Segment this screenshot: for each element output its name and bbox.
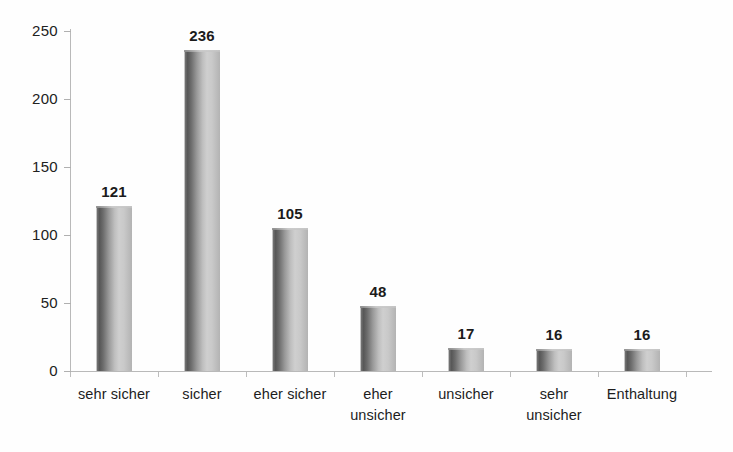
x-axis-label-line: sicher (182, 386, 221, 402)
y-tick-label: 250 (0, 22, 58, 39)
y-tick-mark (64, 167, 71, 168)
x-tick-mark (598, 372, 599, 377)
bar-chart: 050100150200250 12123610548171616 sehr s… (0, 0, 733, 452)
bar-group: 17 (422, 314, 510, 371)
x-axis-line (70, 371, 712, 372)
bar[interactable] (96, 206, 132, 371)
bar-top-cap (448, 348, 484, 350)
bar-group: 16 (598, 315, 686, 371)
bar-value-label: 17 (422, 325, 510, 342)
bar-value-label: 16 (598, 326, 686, 343)
bar[interactable] (536, 349, 572, 371)
x-tick-mark (334, 372, 335, 377)
bar[interactable] (360, 306, 396, 371)
bar-top-cap (624, 349, 660, 351)
bar-top-cap (360, 306, 396, 308)
bar-top-cap (536, 349, 572, 351)
x-axis-label: Enthaltung (587, 384, 697, 405)
bar-group: 105 (246, 194, 334, 371)
bar-value-label: 48 (334, 283, 422, 300)
plot-area: 050100150200250 12123610548171616 sehr s… (0, 0, 733, 452)
y-tick-label: 50 (0, 294, 58, 311)
bar-top-cap (272, 228, 308, 230)
y-tick-mark (64, 99, 71, 100)
x-tick-mark (70, 372, 71, 377)
y-tick-label: 0 (0, 362, 58, 379)
bar[interactable] (184, 50, 220, 371)
bar-group: 48 (334, 272, 422, 371)
bar-group: 16 (510, 315, 598, 371)
x-axis-label-line: eher (363, 386, 392, 402)
x-tick-mark (246, 372, 247, 377)
y-tick-label: 100 (0, 226, 58, 243)
x-axis-label-line: eher sicher (254, 386, 327, 402)
bar-group: 236 (158, 16, 246, 371)
bar-top-cap (184, 50, 220, 52)
x-tick-mark (158, 372, 159, 377)
bar-value-label: 121 (70, 183, 158, 200)
y-tick-mark (64, 31, 71, 32)
x-axis-label-line: unsicher (499, 405, 609, 426)
x-tick-mark (422, 372, 423, 377)
x-axis-label-line: sehr (540, 386, 569, 402)
bar-value-label: 105 (246, 205, 334, 222)
bar-value-label: 16 (510, 326, 598, 343)
bar[interactable] (624, 349, 660, 371)
bar[interactable] (448, 348, 484, 371)
x-axis-label-line: sehr sicher (78, 386, 150, 402)
y-tick-label: 150 (0, 158, 58, 175)
x-axis-label-line: unsicher (323, 405, 433, 426)
bar[interactable] (272, 228, 308, 371)
x-axis-label-line: Enthaltung (607, 386, 677, 402)
x-tick-mark (510, 372, 511, 377)
bar-group: 121 (70, 172, 158, 371)
y-tick-label: 200 (0, 90, 58, 107)
bar-value-label: 236 (158, 27, 246, 44)
bar-top-cap (96, 206, 132, 208)
x-tick-mark (686, 372, 687, 377)
x-axis-label-line: unsicher (438, 386, 494, 402)
